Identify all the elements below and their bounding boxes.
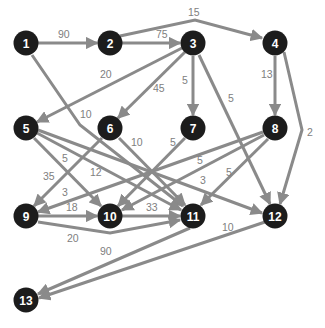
edge-weight-label: 75 bbox=[156, 28, 168, 40]
edge-weight-label: 12 bbox=[90, 166, 102, 178]
edge-weight-label: 5 bbox=[62, 152, 68, 164]
edge-weight-label: 5 bbox=[228, 92, 234, 104]
edge-11-to-13 bbox=[38, 228, 190, 294]
edge-weight-label: 10 bbox=[222, 221, 234, 233]
node-6: 6 bbox=[98, 116, 123, 141]
edge-weight-label: 20 bbox=[67, 232, 79, 244]
edge-weight-label: 10 bbox=[131, 136, 143, 148]
node-label: 10 bbox=[103, 210, 117, 224]
node-3: 3 bbox=[181, 31, 206, 56]
edge-weight-label: 45 bbox=[153, 82, 165, 94]
edge-weight-label: 90 bbox=[100, 245, 112, 257]
node-label: 1 bbox=[23, 37, 30, 51]
edge-weight-label: 20 bbox=[100, 68, 112, 80]
node-13: 13 bbox=[14, 288, 39, 313]
node-4: 4 bbox=[263, 31, 288, 56]
node-9: 9 bbox=[14, 204, 39, 229]
node-label: 11 bbox=[187, 210, 200, 224]
node-label: 5 bbox=[23, 122, 30, 136]
edge-weight-label: 5 bbox=[170, 136, 176, 148]
node-label: 12 bbox=[268, 210, 282, 224]
edge-3-to-12 bbox=[199, 55, 270, 204]
edge-weight-label: 5 bbox=[197, 154, 203, 166]
node-label: 9 bbox=[23, 210, 30, 224]
edge-weight-label: 5 bbox=[182, 74, 188, 86]
node-label: 2 bbox=[107, 37, 114, 51]
node-label: 13 bbox=[19, 294, 33, 308]
node-label: 7 bbox=[190, 122, 197, 136]
node-5: 5 bbox=[14, 116, 39, 141]
edge-weight-label: 3 bbox=[62, 186, 68, 198]
node-label: 6 bbox=[107, 122, 114, 136]
node-label: 4 bbox=[272, 37, 279, 51]
graph-canvas: 901075152045551325123351053551820339010 … bbox=[0, 0, 325, 328]
edge-weight-label: 18 bbox=[66, 201, 78, 213]
node-12: 12 bbox=[263, 204, 288, 229]
node-11: 11 bbox=[181, 204, 206, 229]
edge-weight-label: 3 bbox=[200, 174, 206, 186]
node-7: 7 bbox=[181, 116, 206, 141]
node-1: 1 bbox=[14, 31, 39, 56]
node-2: 2 bbox=[98, 31, 123, 56]
edge-weight-label: 5 bbox=[226, 166, 232, 178]
node-8: 8 bbox=[263, 116, 288, 141]
edge-weight-label: 13 bbox=[261, 68, 273, 80]
edge-layer bbox=[32, 20, 302, 298]
edge-weight-label: 90 bbox=[58, 28, 70, 40]
node-label: 8 bbox=[272, 122, 279, 136]
node-10: 10 bbox=[98, 204, 123, 229]
edge-8-to-10 bbox=[122, 135, 264, 210]
edge-5-to-11 bbox=[37, 133, 181, 210]
edge-weight-label: 35 bbox=[43, 170, 55, 182]
node-label: 3 bbox=[190, 37, 197, 51]
edge-weight-label: 33 bbox=[146, 201, 158, 213]
edge-weight-label: 2 bbox=[307, 126, 313, 138]
edge-weight-label: 10 bbox=[80, 108, 92, 120]
edge-weight-label: 15 bbox=[188, 6, 200, 18]
